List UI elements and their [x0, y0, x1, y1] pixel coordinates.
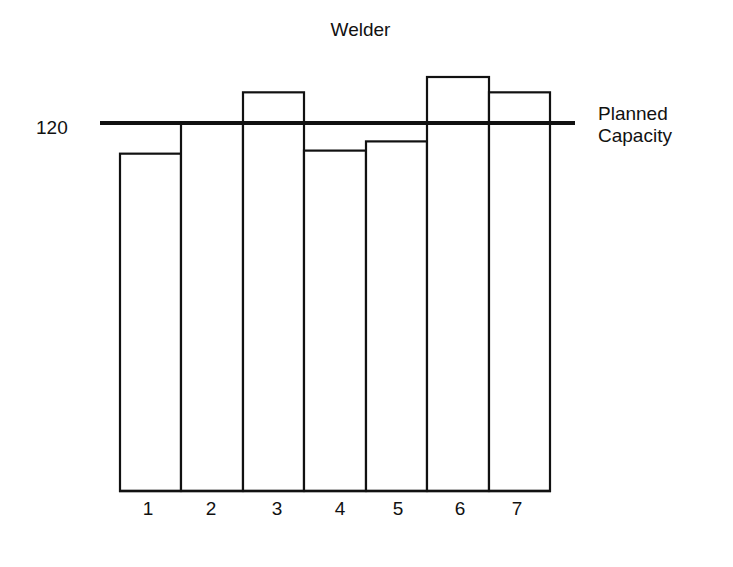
bar-4	[304, 151, 366, 491]
bar-3	[243, 92, 304, 491]
x-tick-label: 5	[383, 498, 413, 520]
bar-6	[427, 77, 489, 491]
x-tick-label: 3	[262, 498, 292, 520]
bar-chart	[0, 0, 733, 567]
x-tick-label: 6	[445, 498, 475, 520]
x-tick-label: 4	[325, 498, 355, 520]
bar-2	[181, 123, 243, 491]
bar-7	[489, 92, 550, 491]
x-tick-label: 2	[196, 498, 226, 520]
x-tick-label: 7	[502, 498, 532, 520]
bar-1	[120, 154, 181, 491]
bar-5	[366, 141, 427, 491]
x-tick-label: 1	[133, 498, 163, 520]
